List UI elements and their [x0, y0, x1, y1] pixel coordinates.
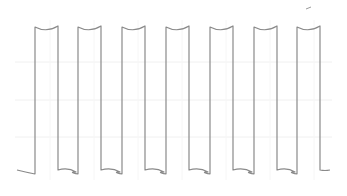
square-wave-chart	[0, 0, 347, 196]
gridlines	[15, 20, 332, 180]
plot-area	[0, 0, 347, 196]
corner-mark	[306, 7, 311, 9]
